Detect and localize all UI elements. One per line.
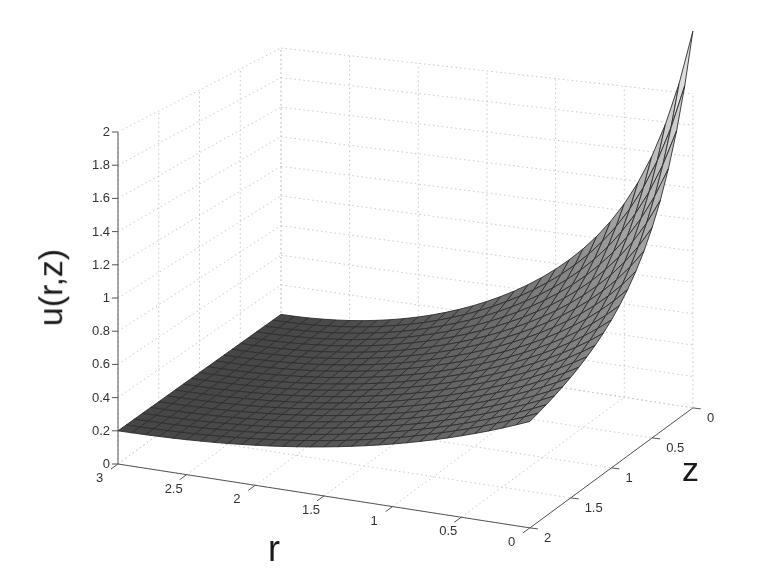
u-tick-label: 1.2: [92, 257, 110, 272]
u-tick-label: 0.6: [92, 356, 110, 371]
r-tick-label: 0.5: [439, 523, 457, 538]
u-tick-label: 0.8: [92, 323, 110, 338]
r-tick-label: 2: [233, 491, 240, 506]
surface-plot-canvas: [0, 0, 757, 584]
r-tick-label: 2.5: [165, 481, 183, 496]
r-tick-label: 3: [96, 470, 103, 485]
u-tick-label: 0.2: [92, 423, 110, 438]
z-tick-label: 0: [707, 410, 714, 425]
z-tick-label: 2: [544, 530, 551, 545]
u-tick-label: 1.8: [92, 157, 110, 172]
u-tick-label: 2: [103, 124, 110, 139]
r-tick-label: 0: [508, 534, 515, 549]
u-tick-label: 0.4: [92, 390, 110, 405]
r-axis-title: r: [268, 528, 280, 570]
z-axis-title: z: [682, 450, 699, 489]
u-axis-title: u(r,z): [31, 249, 70, 326]
u-tick-label: 0: [103, 456, 110, 471]
r-tick-label: 1: [371, 513, 378, 528]
u-tick-label: 1.4: [92, 224, 110, 239]
z-tick-label: 1: [625, 470, 632, 485]
u-tick-label: 1: [103, 290, 110, 305]
z-tick-label: 1.5: [585, 500, 603, 515]
r-tick-label: 1.5: [302, 502, 320, 517]
u-tick-label: 1.6: [92, 190, 110, 205]
